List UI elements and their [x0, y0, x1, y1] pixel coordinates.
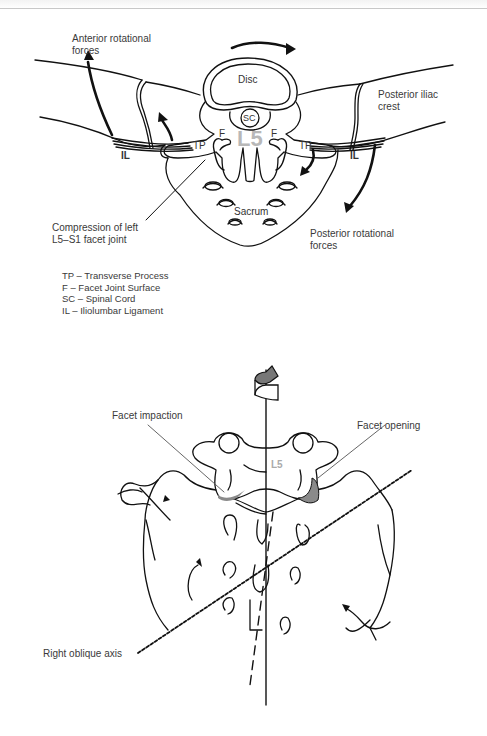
label-line: Compression of left — [52, 222, 138, 234]
abbreviation-legend: TP – Transverse Process F – Facet Joint … — [62, 270, 168, 316]
il-right-label: IL — [350, 150, 359, 161]
legend-tp: TP – Transverse Process — [62, 270, 168, 282]
facet-impaction-label: Facet impaction — [112, 410, 183, 422]
tp-left-label: TP — [193, 140, 206, 151]
spinal-cord-label: SC — [243, 113, 256, 123]
label-line: forces — [310, 240, 394, 252]
right-oblique-axis-label: Right oblique axis — [43, 648, 122, 660]
l5-bottom-label: L5 — [271, 459, 283, 470]
facet-left-label: F — [219, 128, 225, 139]
facet-opening-label: Facet opening — [357, 420, 420, 432]
facet-right-label: F — [271, 128, 277, 139]
compression-label: Compression of left L5–S1 facet joint — [52, 222, 138, 245]
sacrum-label: Sacrum — [234, 206, 268, 217]
posterior-crest-label: Posterior iliac crest — [378, 89, 438, 112]
anterior-forces-label: Anterior rotational forces — [72, 33, 151, 56]
label-line: L5–S1 facet joint — [52, 234, 138, 246]
legend-sc: SC – Spinal Cord — [62, 293, 168, 305]
label-line: Anterior rotational — [72, 33, 151, 45]
il-left-label: IL — [121, 150, 130, 161]
label-line: forces — [72, 45, 151, 57]
label-line: Posterior iliac — [378, 89, 438, 101]
legend-il: IL – Iliolumbar Ligament — [62, 305, 168, 317]
disc-label: Disc — [238, 74, 257, 85]
l5-label: L5 — [237, 126, 263, 152]
tp-right-label: TP — [299, 140, 312, 151]
posterior-forces-label: Posterior rotational forces — [310, 228, 394, 251]
label-line: Posterior rotational — [310, 228, 394, 240]
legend-f: F – Facet Joint Surface — [62, 282, 168, 294]
label-line: crest — [378, 101, 438, 113]
